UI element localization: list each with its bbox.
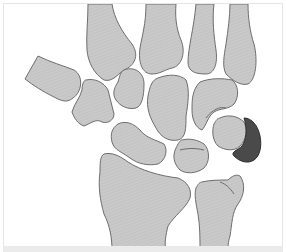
capitate: [147, 75, 188, 140]
triquetrum: [213, 116, 246, 150]
metacarpal-1: [25, 56, 81, 101]
metacarpal-3: [140, 4, 184, 74]
ulna: [195, 175, 243, 250]
radius: [99, 153, 190, 250]
lunate: [174, 139, 209, 173]
wrist-bones-diagram: [0, 0, 286, 252]
metacarpal-4: [188, 4, 217, 74]
metacarpal-5: [224, 4, 256, 84]
